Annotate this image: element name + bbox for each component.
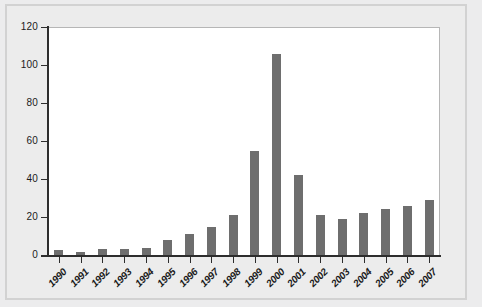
y-axis-tick-label: 40: [0, 174, 38, 184]
y-axis-tick-label: 20: [0, 212, 38, 222]
y-axis-tick-label: 80: [0, 98, 38, 108]
axis-labels-layer: 0204060801001201990199119921993199419951…: [0, 0, 482, 307]
y-axis-tick-label: 60: [0, 136, 38, 146]
bar-chart-figure: 0204060801001201990199119921993199419951…: [0, 0, 482, 307]
y-axis-tick-label: 0: [0, 250, 38, 260]
y-axis-tick-label: 100: [0, 60, 38, 70]
y-axis-tick-label: 120: [0, 22, 38, 32]
